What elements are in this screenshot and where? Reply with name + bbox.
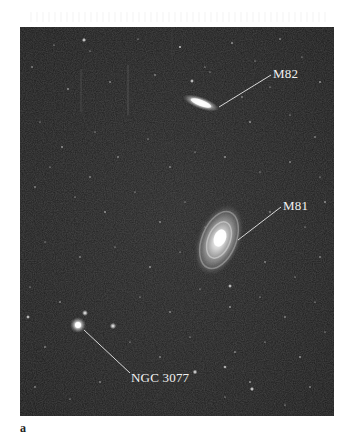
label-ngc3077: NGC 3077 [131, 371, 189, 384]
bright-star [110, 323, 116, 329]
bright-star [228, 284, 232, 288]
label-m81: M81 [283, 199, 308, 212]
scan-artifact [30, 12, 330, 22]
bright-star [82, 38, 86, 42]
bright-star [223, 365, 227, 369]
panel-letter: a [20, 421, 26, 436]
bright-star [26, 315, 30, 319]
galaxy-ngc3077 [70, 317, 86, 333]
bright-star [193, 370, 198, 375]
label-m82: M82 [273, 67, 298, 80]
bright-star [190, 79, 194, 83]
sky-field [20, 27, 334, 416]
astronomical-photograph [20, 27, 334, 416]
bright-star [82, 310, 88, 316]
bright-star [250, 387, 254, 391]
